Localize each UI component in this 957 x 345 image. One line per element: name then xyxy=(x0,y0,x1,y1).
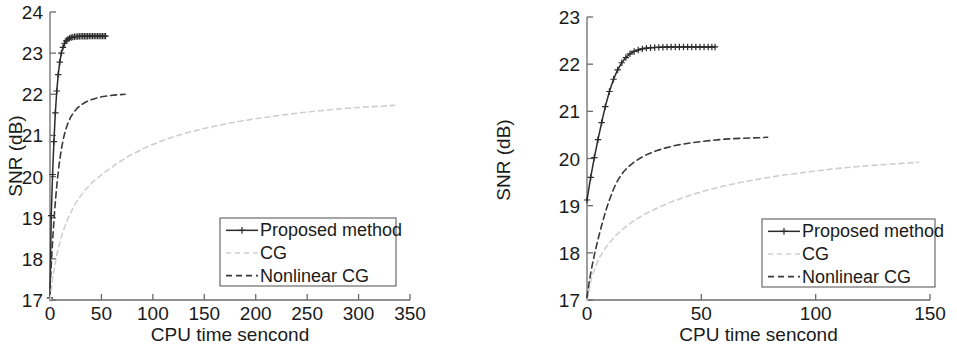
x-axis-label: CPU time sencond xyxy=(679,324,837,345)
x-axis-tick-label: 150 xyxy=(914,303,946,324)
y-axis-tick-label: 20 xyxy=(559,149,580,170)
series-marker-plus xyxy=(595,136,601,142)
series-marker-plus xyxy=(602,103,608,109)
chart-panel-left: 1718192021222324050100150200250300350CPU… xyxy=(0,0,480,345)
y-axis-label: SNR (dB) xyxy=(5,115,26,196)
series-marker-plus xyxy=(55,71,61,77)
x-axis-tick-label: 0 xyxy=(582,303,593,324)
series-marker-plus xyxy=(635,47,641,53)
chart-panel-right: 17181920212223050100150CPU time sencondS… xyxy=(480,0,957,345)
series-marker-plus xyxy=(102,33,108,39)
x-axis-tick-label: 50 xyxy=(691,303,712,324)
x-axis-tick-label: 350 xyxy=(394,303,426,324)
series-marker-plus xyxy=(52,110,58,116)
y-axis-tick-label: 18 xyxy=(22,249,43,270)
series-marker-plus xyxy=(58,50,64,56)
x-axis-tick-label: 100 xyxy=(800,303,832,324)
y-axis-tick-label: 19 xyxy=(559,196,580,217)
series-marker-plus xyxy=(584,197,590,203)
series-marker-plus xyxy=(591,154,597,160)
y-axis-tick-label: 22 xyxy=(22,84,43,105)
legend-label-cg: CG xyxy=(260,243,287,263)
y-axis-tick-label: 17 xyxy=(22,290,43,311)
x-axis-tick-label: 100 xyxy=(137,303,169,324)
x-axis-tick-label: 50 xyxy=(91,303,112,324)
snr-vs-cpu-time-figure: 1718192021222324050100150200250300350CPU… xyxy=(0,0,957,345)
series-marker-plus xyxy=(712,44,718,50)
chart-svg-left: 1718192021222324050100150200250300350CPU… xyxy=(0,0,480,345)
series-marker-plus xyxy=(587,174,593,180)
y-axis-tick-label: 23 xyxy=(22,43,43,64)
series-marker-plus xyxy=(639,46,645,52)
y-axis-tick-label: 19 xyxy=(22,208,43,229)
series-marker-plus xyxy=(54,88,60,94)
x-axis-tick-label: 0 xyxy=(45,303,56,324)
x-axis-tick-label: 200 xyxy=(240,303,272,324)
y-axis-tick-label: 22 xyxy=(559,54,580,75)
y-axis-tick-label: 18 xyxy=(559,243,580,264)
series-marker-plus xyxy=(614,67,620,73)
chart-svg-right: 17181920212223050100150CPU time sencondS… xyxy=(480,0,957,345)
series-marker-plus xyxy=(606,88,612,94)
x-axis-tick-label: 250 xyxy=(291,303,323,324)
series-line-nonlinear-cg xyxy=(587,137,768,297)
series-line-nonlinear-cg xyxy=(50,94,125,287)
series-marker-plus xyxy=(610,76,616,82)
x-axis-label: CPU time sencond xyxy=(151,324,309,345)
y-axis-tick-label: 17 xyxy=(559,290,580,311)
legend-label-cg: CG xyxy=(802,244,829,264)
legend-label-nonlinear-cg: Nonlinear CG xyxy=(802,267,911,287)
series-marker-plus xyxy=(51,138,57,144)
legend-label-nonlinear-cg: Nonlinear CG xyxy=(260,266,369,286)
legend-label-proposed-method: Proposed method xyxy=(260,220,402,240)
x-axis-tick-label: 150 xyxy=(188,303,220,324)
x-axis-tick-label: 300 xyxy=(343,303,375,324)
y-axis-tick-label: 23 xyxy=(559,7,580,28)
series-line-proposed-method xyxy=(587,47,715,200)
series-marker-plus xyxy=(57,59,63,65)
y-axis-label: SNR (dB) xyxy=(493,119,514,200)
series-marker-plus xyxy=(598,119,604,125)
y-axis-tick-label: 24 xyxy=(22,2,44,23)
y-axis-tick-label: 21 xyxy=(559,101,580,122)
legend-label-proposed-method: Proposed method xyxy=(802,221,944,241)
